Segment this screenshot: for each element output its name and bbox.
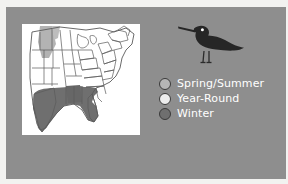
legend-item-year-round[interactable]: Year-Round bbox=[159, 91, 284, 106]
legend-swatch-spring-summer bbox=[159, 78, 171, 90]
bird-silhouette bbox=[174, 19, 246, 67]
legend-label-winter: Winter bbox=[177, 108, 214, 120]
legend-item-winter[interactable]: Winter bbox=[159, 106, 284, 121]
bird-eye bbox=[201, 28, 204, 31]
legend-label-year-round: Year-Round bbox=[177, 93, 239, 105]
figure-panel: Spring/Summer Year-Round Winter bbox=[6, 7, 286, 179]
bird-beak bbox=[178, 27, 196, 33]
legend-swatch-winter bbox=[159, 108, 171, 120]
shorebird-icon bbox=[174, 19, 246, 67]
range-map-figure: Spring/Summer Year-Round Winter bbox=[0, 0, 288, 184]
range-map-card bbox=[22, 24, 140, 135]
map-legend: Spring/Summer Year-Round Winter bbox=[159, 76, 284, 121]
legend-swatch-year-round bbox=[159, 93, 171, 105]
bird-legs bbox=[201, 51, 212, 63]
legend-item-spring-summer[interactable]: Spring/Summer bbox=[159, 76, 284, 91]
legend-label-spring-summer: Spring/Summer bbox=[177, 78, 264, 90]
united-states-map-svg bbox=[22, 24, 140, 135]
